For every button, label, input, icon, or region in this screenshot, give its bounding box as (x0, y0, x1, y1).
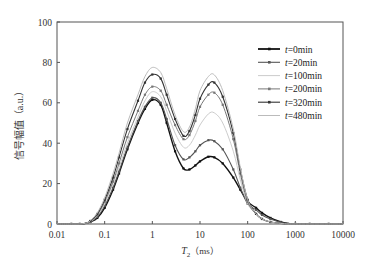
data-point-marker (188, 156, 190, 158)
legend-item: t=320min (258, 98, 322, 108)
data-point-marker (194, 114, 196, 116)
data-point-marker (174, 144, 176, 146)
data-point-marker (213, 156, 215, 158)
data-point-marker (144, 106, 146, 108)
data-point-marker (222, 104, 224, 106)
legend-item: t=480min (258, 111, 322, 121)
data-point-marker (166, 104, 168, 106)
legend-label: t=20min (285, 58, 318, 68)
data-point-marker (188, 134, 190, 136)
nmr-t2-distribution-chart: 020406080100 0.010.1110100100010000 t=0m… (0, 0, 371, 272)
data-point-marker (137, 100, 139, 102)
y-tick-label: 100 (38, 18, 53, 28)
data-point-marker (137, 110, 139, 112)
data-point-marker (126, 128, 128, 130)
legend-marker (268, 88, 271, 91)
data-point-marker (199, 106, 201, 108)
data-point-marker (194, 120, 196, 122)
data-point-marker (213, 82, 215, 84)
data-point-marker (207, 156, 209, 158)
series-t-320min (57, 73, 343, 224)
legend: t=0mint=20mint=100mint=200mint=320mint=4… (258, 45, 322, 122)
data-point-marker (239, 187, 241, 189)
data-point-marker (222, 162, 224, 164)
data-point-marker (261, 212, 263, 214)
legend-marker (268, 48, 271, 51)
data-point-marker (160, 102, 162, 104)
legend-label: t=100min (285, 71, 322, 81)
data-point-marker (182, 138, 184, 140)
x-tick-label: 1000 (286, 230, 305, 240)
legend-item: t=20min (258, 58, 318, 68)
y-tick-label: 60 (43, 98, 53, 108)
data-point-marker (261, 214, 263, 216)
legend-item: t=0min (258, 45, 313, 55)
data-point-marker (188, 168, 190, 170)
data-point-marker (182, 135, 184, 137)
data-point-marker (166, 94, 168, 96)
data-point-marker (222, 148, 224, 150)
legend-marker (268, 61, 271, 64)
y-tick-label: 0 (47, 220, 52, 230)
data-point-marker (151, 73, 153, 75)
data-point-marker (207, 139, 209, 141)
data-point-marker (255, 209, 257, 211)
y-axis-title: 信号幅值（a.u.） (13, 86, 25, 160)
legend-label: t=320min (285, 98, 322, 108)
data-point-marker (194, 150, 196, 152)
x-tick-label: 10000 (331, 230, 355, 240)
data-point-marker (199, 98, 201, 100)
data-point-marker (137, 120, 139, 122)
data-point-marker (166, 118, 168, 120)
data-point-marker (232, 176, 234, 178)
y-tick-label: 20 (43, 179, 53, 189)
data-point-marker (151, 86, 153, 88)
legend-item: t=100min (258, 71, 322, 81)
legend-marker (268, 101, 271, 104)
data-point-marker (232, 168, 234, 170)
data-point-marker (151, 97, 153, 99)
y-tick-label: 40 (43, 139, 53, 149)
data-point-marker (118, 162, 120, 164)
data-point-marker (144, 94, 146, 96)
data-point-marker (182, 158, 184, 160)
data-point-marker (199, 160, 201, 162)
data-point-marker (269, 218, 271, 220)
data-point-marker (126, 136, 128, 138)
data-point-marker (207, 94, 209, 96)
x-tick-label: 100 (241, 230, 256, 240)
data-point-marker (207, 84, 209, 86)
x-tick-label: 1 (150, 230, 155, 240)
legend-label: t=200min (285, 84, 322, 94)
x-tick-label: 10 (195, 230, 205, 240)
legend-label: t=480min (285, 111, 322, 121)
x-axis-title-unit: （ms） (190, 246, 219, 256)
data-point-marker (199, 144, 201, 146)
data-point-marker (255, 207, 257, 209)
legend-label: t=0min (285, 45, 313, 55)
data-point-marker (151, 99, 153, 101)
data-point-marker (213, 92, 215, 94)
data-point-marker (194, 164, 196, 166)
data-point-marker (174, 150, 176, 152)
data-point-marker (174, 124, 176, 126)
y-tick-label: 80 (43, 58, 53, 68)
x-axis-title: T2（ms） (181, 245, 219, 259)
data-point-marker (160, 77, 162, 79)
legend-item: t=200min (258, 84, 322, 94)
x-tick-label: 0.01 (49, 230, 66, 240)
x-tick-label: 0.1 (99, 230, 111, 240)
data-point-marker (144, 82, 146, 84)
data-point-marker (188, 130, 190, 132)
data-point-marker (160, 90, 162, 92)
data-point-marker (222, 96, 224, 98)
data-point-marker (182, 167, 184, 169)
data-point-marker (213, 140, 215, 142)
